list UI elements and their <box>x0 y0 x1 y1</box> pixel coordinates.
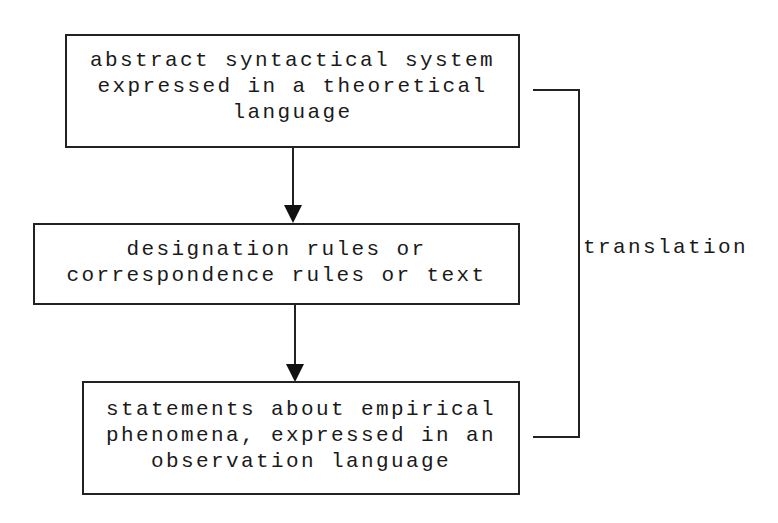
theoretical-system-box: abstract syntactical system expressed in… <box>65 34 520 148</box>
correspondence-rules-box: designation rules or correspondence rule… <box>33 223 520 305</box>
bracket-bottom <box>533 436 580 438</box>
arrowhead-down-icon <box>284 205 302 223</box>
observation-statements-box: statements about empirical phenomena, ex… <box>82 381 520 495</box>
box-line: observation language <box>84 449 518 475</box>
box-line: correspondence rules or text <box>35 263 518 289</box>
arrow-shaft <box>294 305 296 365</box>
box-line: phenomena, expressed in an <box>84 423 518 449</box>
translation-label: translation <box>583 235 748 261</box>
bracket-top <box>533 89 580 91</box>
box-line: abstract syntactical system <box>67 48 518 74</box>
box-line: language <box>67 100 518 126</box>
arrow-shaft <box>292 148 294 206</box>
box-line: statements about empirical <box>84 397 518 423</box>
box-line: designation rules or <box>35 237 518 263</box>
box-line: expressed in a theoretical <box>67 74 518 100</box>
bracket-vertical <box>578 89 580 438</box>
arrowhead-down-icon <box>286 364 304 382</box>
